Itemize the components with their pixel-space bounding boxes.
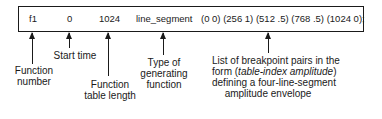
- label-breakpoints: List of breakpoint pairs in the form (ta…: [212, 55, 324, 99]
- label-line: table length: [82, 90, 138, 101]
- arrow-up-icon: [163, 33, 164, 55]
- label-italic-fragment: table-index amplitude: [238, 66, 333, 77]
- label-start-time: Start time: [50, 50, 100, 61]
- field-generator: line_segment: [136, 13, 193, 25]
- label-line: defining a four-line-segment: [212, 77, 324, 88]
- arrow-up-icon: [268, 33, 269, 53]
- label-line: amplitude envelope: [212, 88, 324, 99]
- label-line: generating: [138, 68, 190, 79]
- label-fragment: form (: [212, 66, 238, 77]
- field-start-time: 0: [67, 13, 72, 25]
- label-line: number: [14, 76, 54, 87]
- label-line: List of breakpoint pairs in the: [212, 55, 324, 66]
- arrow-up-icon: [108, 33, 109, 76]
- arrow-up-icon: [32, 33, 33, 64]
- label-line: form (table-index amplitude): [212, 66, 324, 77]
- field-function-number: f1: [29, 13, 37, 25]
- label-line: function: [138, 79, 190, 90]
- label-line: Function: [82, 79, 138, 90]
- label-function-number: Function number: [14, 65, 54, 87]
- label-table-length: Function table length: [82, 79, 138, 101]
- field-table-length: 1024: [99, 13, 120, 25]
- label-line: Start time: [50, 50, 100, 61]
- field-breakpoints: (0 0) (256 1) (512 .5) (768 .5) (1024 0)…: [201, 13, 365, 25]
- label-line: Function: [14, 65, 54, 76]
- arrow-up-icon: [69, 33, 70, 48]
- label-line: Type of: [138, 57, 190, 68]
- label-fragment: ): [333, 66, 336, 77]
- label-generator: Type of generating function: [138, 57, 190, 90]
